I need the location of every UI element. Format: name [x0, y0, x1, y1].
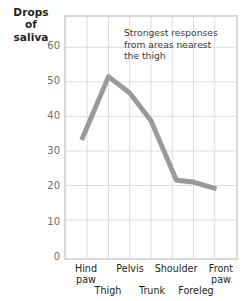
y-tick-label-30: 30	[34, 145, 60, 156]
y-tick-label-20: 20	[34, 180, 60, 191]
y-tick-label-60: 60	[34, 40, 60, 51]
x-label-shoulder-line-1: Shoulder	[151, 263, 201, 274]
chart-annotation-line-2: from areas nearest	[124, 39, 236, 51]
y-axis-title-line-2: of	[0, 18, 62, 30]
y-axis-title-line-1: Drops	[0, 6, 62, 18]
chart-annotation: Strongest responses from areas nearest t…	[124, 27, 236, 62]
x-label-pelvis-line-1: Pelvis	[108, 263, 152, 274]
x-label-front-paw: Front paw	[199, 263, 243, 286]
x-label-foreleg-text: Foreleg	[172, 285, 220, 296]
x-label-foreleg: Foreleg	[172, 285, 220, 296]
x-label-shoulder: Shoulder	[151, 263, 201, 274]
x-label-thigh-text: Thigh	[85, 285, 131, 296]
x-label-hind-paw: Hind paw	[64, 263, 108, 286]
chart-annotation-line-1: Strongest responses	[124, 27, 236, 39]
x-label-trunk-text: Trunk	[129, 285, 175, 296]
x-label-pelvis: Pelvis	[108, 263, 152, 274]
x-label-front-paw-line-1: Front	[199, 263, 243, 274]
chart-annotation-line-3: the thigh	[124, 50, 236, 62]
y-tick-label-0: 0	[34, 251, 60, 262]
saliva-response-line-chart: Drops of saliva 60 50 40 30 20 10 0	[0, 0, 248, 301]
y-axis-title: Drops of saliva	[0, 6, 62, 43]
x-label-trunk: Trunk	[129, 285, 175, 296]
y-tick-label-50: 50	[34, 75, 60, 86]
y-tick-label-40: 40	[34, 110, 60, 121]
x-label-hind-paw-line-1: Hind	[64, 263, 108, 274]
x-label-thigh: Thigh	[85, 285, 131, 296]
y-tick-label-10: 10	[34, 216, 60, 227]
